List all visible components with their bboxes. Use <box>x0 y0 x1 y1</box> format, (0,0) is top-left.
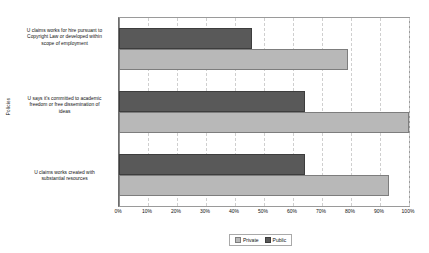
chart-legend: PrivatePublic <box>229 234 292 246</box>
x-tick-30%: 30% <box>190 208 220 214</box>
x-tick-20%: 20% <box>161 208 191 214</box>
bar-public-0 <box>119 28 252 49</box>
x-tick-80%: 80% <box>335 208 365 214</box>
x-tick-90%: 90% <box>364 208 394 214</box>
category-label-0-line-2: scope of employment <box>14 41 115 47</box>
x-tick-10%: 10% <box>132 208 162 214</box>
legend-entry-private: Private <box>235 237 259 243</box>
x-tick-40%: 40% <box>219 208 249 214</box>
y-axis-title: Policies <box>6 82 11 132</box>
bar-public-2 <box>119 154 305 175</box>
legend-label-private: Private <box>243 237 259 243</box>
legend-entry-public: Public <box>265 237 287 243</box>
legend-swatch-public-icon <box>265 237 271 243</box>
x-tick-60%: 60% <box>277 208 307 214</box>
category-label-2: U claims works created with substantial … <box>14 170 115 183</box>
x-tick-100%: 100% <box>393 208 423 214</box>
category-label-0: U claims works for hire pursuant to Copy… <box>14 28 115 47</box>
category-label-0-line-1: Copyright Law or developed within <box>14 34 115 40</box>
bar-private-2 <box>119 175 389 196</box>
bar-private-0 <box>119 49 348 70</box>
plot-area <box>118 17 410 207</box>
category-label-1-line-2: ideas <box>14 109 115 115</box>
x-tick-0%: 0% <box>103 208 133 214</box>
bar-public-1 <box>119 91 305 112</box>
x-tick-50%: 50% <box>248 208 278 214</box>
bar-chart: Policies U claims works for hire pursuan… <box>0 0 429 253</box>
category-label-2-line-1: substantial resources <box>14 176 115 182</box>
legend-swatch-private-icon <box>235 237 241 243</box>
gridline-100% <box>409 18 410 206</box>
category-label-1: U says it's committed to academic freedo… <box>14 96 115 115</box>
legend-label-public: Public <box>273 237 287 243</box>
x-tick-70%: 70% <box>306 208 336 214</box>
bar-private-1 <box>119 112 409 133</box>
